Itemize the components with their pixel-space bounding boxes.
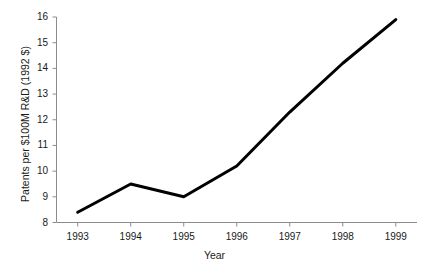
- plot-area: [0, 0, 429, 269]
- x-axis-tick-label: 1997: [279, 232, 301, 242]
- data-series-line: [78, 20, 396, 213]
- x-axis-tick-marks: [78, 223, 396, 227]
- x-axis-tick-label: 1998: [332, 232, 354, 242]
- x-axis-title: Year: [0, 249, 429, 261]
- x-axis-tick-label: 1996: [226, 232, 248, 242]
- line-chart-figure: 8910111213141516 19931994199519961997199…: [0, 0, 429, 269]
- y-axis-title: Patents per $100M R&D (1992 $): [19, 19, 31, 229]
- x-axis-tick-label: 1993: [67, 232, 89, 242]
- x-axis-tick-label: 1994: [120, 232, 142, 242]
- x-axis-tick-label: 1999: [385, 232, 407, 242]
- x-axis-tick-label: 1995: [173, 232, 195, 242]
- y-axis-tick-marks: [53, 17, 57, 223]
